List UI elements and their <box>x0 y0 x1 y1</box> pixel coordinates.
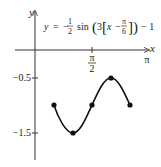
data-point <box>89 102 94 107</box>
svg-text:1: 1 <box>68 17 72 26</box>
data-point <box>70 130 75 135</box>
chart: y x π 2 π −0.5 −1.5 y = − 1 2 sin ( 3 [ … <box>0 0 161 167</box>
x-tick-label-pi-over-2-den: 2 <box>90 63 95 74</box>
svg-text:6: 6 <box>122 27 126 36</box>
svg-text:− 1: − 1 <box>141 21 154 32</box>
data-point <box>108 75 113 80</box>
svg-text:y = −: y = − <box>43 21 69 32</box>
x-axis-label: x <box>149 42 155 54</box>
svg-text:π: π <box>122 17 126 26</box>
svg-text:x −: x − <box>106 21 121 32</box>
y-tick-label-neg-1-5: −1.5 <box>13 127 31 138</box>
x-tick-label-pi-over-2-num: π <box>89 52 94 63</box>
data-point <box>51 102 56 107</box>
y-tick-label-neg-0-5: −0.5 <box>13 72 31 83</box>
x-tick-label-pi: π <box>144 54 149 65</box>
svg-text:sin: sin <box>77 21 89 32</box>
data-point <box>127 102 132 107</box>
svg-text:2: 2 <box>68 27 72 36</box>
y-axis-label: y <box>28 6 34 18</box>
equation-label: y = − 1 2 sin ( 3 [ x − π 6 ]) − 1 <box>43 17 154 36</box>
svg-text:]): ]) <box>128 19 138 36</box>
